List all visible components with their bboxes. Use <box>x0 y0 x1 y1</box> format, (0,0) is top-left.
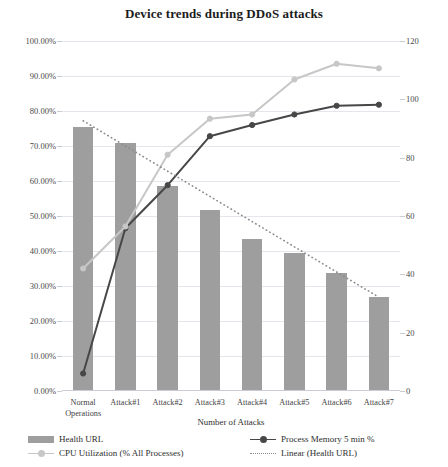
x-axis-tick-label: Attack#3 <box>189 398 231 409</box>
x-axis-tick-label: Attack#1 <box>104 398 146 409</box>
y-axis-left-tick-label: 10.00% <box>2 351 56 361</box>
legend-line-swatch-icon <box>28 449 54 458</box>
y-axis-right-tickmark <box>400 274 405 275</box>
x-axis-tick-label: Attack#2 <box>147 398 189 409</box>
x-axis-tick-label: Attack#4 <box>231 398 273 409</box>
data-point-marker <box>81 371 86 376</box>
data-point-marker <box>165 152 170 157</box>
y-axis-left-tick-label: 90.00% <box>2 71 56 81</box>
x-axis-tick-label: Attack#5 <box>273 398 315 409</box>
y-axis-left-tickmark <box>57 251 62 252</box>
legend-bar-swatch-icon <box>28 436 54 443</box>
data-point-marker <box>376 102 381 107</box>
y-axis-right-tick-label: 100 <box>406 94 446 104</box>
y-axis-left-tickmark <box>57 286 62 287</box>
data-point-marker <box>250 122 255 127</box>
line-cpu-utilization-all-processes <box>83 64 379 269</box>
y-axis-left-tickmark <box>57 356 62 357</box>
data-point-marker <box>207 134 212 139</box>
x-axis-tick-label: Attack#6 <box>316 398 358 409</box>
y-axis-left-tick-label: 20.00% <box>2 316 56 326</box>
line-process-memory-5-min <box>83 105 379 374</box>
y-axis-left-tick-label: 40.00% <box>2 246 56 256</box>
y-axis-right-tick-label: 120 <box>406 36 446 46</box>
legend-item[interactable]: Process Memory 5 min % <box>250 434 375 444</box>
y-axis-left-tickmark <box>57 391 62 392</box>
legend-item[interactable]: Health URL <box>28 434 103 444</box>
y-axis-left-tick-label: 30.00% <box>2 281 56 291</box>
line-series-layer <box>62 41 400 391</box>
y-axis-left-tickmark <box>57 321 62 322</box>
y-axis-left-tickmark <box>57 76 62 77</box>
data-point-marker <box>376 66 381 71</box>
data-point-marker <box>123 224 128 229</box>
y-axis-right-tickmark <box>400 99 405 100</box>
y-axis-right-tickmark <box>400 41 405 42</box>
legend-line-swatch-icon <box>250 435 276 444</box>
y-axis-right-tick-label: 40 <box>406 269 446 279</box>
data-point-marker <box>250 112 255 117</box>
chart-title: Device trends during DDoS attacks <box>0 6 448 22</box>
data-point-marker <box>81 266 86 271</box>
y-axis-right-tickmark <box>400 158 405 159</box>
y-axis-right-tick-label: 80 <box>406 153 446 163</box>
y-axis-left-tickmark <box>57 111 62 112</box>
y-axis-left-tick-label: 100.00% <box>2 36 56 46</box>
legend-dotted-line-swatch-icon <box>250 449 276 458</box>
legend-item-label: CPU Utilization (% All Processes) <box>59 448 184 458</box>
legend-item[interactable]: CPU Utilization (% All Processes) <box>28 448 184 458</box>
trendline-linear-health-url <box>83 121 379 297</box>
chart-legend: Health URLProcess Memory 5 min %CPU Util… <box>28 434 448 464</box>
legend-item-label: Health URL <box>59 434 103 444</box>
plot-area: 0.00%10.00%20.00%30.00%40.00%50.00%60.00… <box>62 41 400 391</box>
legend-item-label: Process Memory 5 min % <box>281 434 375 444</box>
data-point-marker <box>334 61 339 66</box>
y-axis-left-tickmark <box>57 181 62 182</box>
data-point-marker <box>207 116 212 121</box>
x-axis-title: Number of Attacks <box>62 417 400 427</box>
y-axis-left-tickmark <box>57 216 62 217</box>
y-axis-left-tick-label: 0.00% <box>2 386 56 396</box>
y-axis-right-tickmark <box>400 391 405 392</box>
chart-container: Device trends during DDoS attacks 0.00%1… <box>0 0 448 467</box>
y-axis-left-tick-label: 50.00% <box>2 211 56 221</box>
data-point-marker <box>165 183 170 188</box>
y-axis-left-tick-label: 60.00% <box>2 176 56 186</box>
x-axis-line <box>62 390 400 391</box>
x-axis-tick-label: Attack#7 <box>358 398 400 409</box>
y-axis-right-tick-label: 20 <box>406 328 446 338</box>
y-axis-right-tickmark <box>400 333 405 334</box>
legend-item-label: Linear (Health URL) <box>281 448 357 458</box>
y-axis-left-tick-label: 80.00% <box>2 106 56 116</box>
data-point-marker <box>334 103 339 108</box>
y-axis-right-tick-label: 60 <box>406 211 446 221</box>
y-axis-right-tickmark <box>400 216 405 217</box>
legend-item[interactable]: Linear (Health URL) <box>250 448 357 458</box>
x-axis-tick-label: Normal Operations <box>62 398 104 419</box>
y-axis-left-tickmark <box>57 146 62 147</box>
y-axis-left-tickmark <box>57 41 62 42</box>
y-axis-left-tick-label: 70.00% <box>2 141 56 151</box>
data-point-marker <box>292 112 297 117</box>
y-axis-right-tick-label: 0 <box>406 386 446 396</box>
data-point-marker <box>292 77 297 82</box>
